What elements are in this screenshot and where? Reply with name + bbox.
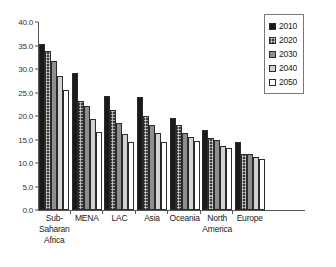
- bar: [194, 141, 200, 210]
- bar: [220, 146, 226, 210]
- bar: [78, 101, 84, 211]
- x-axis-label: LAC: [103, 213, 136, 246]
- x-axis-label: North America: [201, 213, 234, 246]
- legend-item: 2040: [269, 61, 297, 75]
- bar: [188, 137, 194, 210]
- x-axis-label: Oceania: [168, 213, 201, 246]
- x-axis-label: Sub- Saharan Africa: [38, 213, 71, 246]
- legend-label: 2050: [279, 77, 297, 87]
- bar: [149, 125, 155, 210]
- bar: [202, 130, 208, 210]
- legend-swatch-icon: [269, 79, 276, 86]
- bar-group: [136, 22, 169, 210]
- bar: [253, 157, 259, 210]
- legend-item: 2010: [269, 19, 297, 33]
- legend-item: 2020: [269, 33, 297, 47]
- legend-swatch-icon: [269, 51, 276, 58]
- bar: [208, 138, 214, 210]
- bar: [90, 119, 96, 210]
- bar: [128, 142, 134, 210]
- x-axis-label: Europe: [233, 213, 266, 246]
- bar: [155, 133, 161, 210]
- bar: [226, 148, 232, 210]
- bar-group: [201, 22, 234, 210]
- legend-swatch-icon: [269, 37, 276, 44]
- bar: [182, 133, 188, 210]
- bar: [39, 44, 45, 210]
- legend-item: 2030: [269, 47, 297, 61]
- bar: [143, 116, 149, 210]
- bar: [57, 76, 63, 210]
- bar: [247, 154, 253, 210]
- bar: [116, 123, 122, 210]
- legend-swatch-icon: [269, 65, 276, 72]
- plot-area: 40.035.030.025.020.015.010.05.00.0: [38, 22, 266, 210]
- legend-label: 2010: [279, 21, 297, 31]
- bar-group: [38, 22, 71, 210]
- bar-group: [71, 22, 104, 210]
- x-axis-label: Asia: [136, 213, 169, 246]
- bar: [137, 97, 143, 210]
- x-axis-labels: Sub- Saharan AfricaMENALACAsiaOceaniaNor…: [38, 213, 266, 246]
- bar: [45, 51, 51, 210]
- bar: [110, 110, 116, 210]
- bar: [235, 142, 241, 210]
- bar: [96, 132, 102, 210]
- bar: [122, 134, 128, 210]
- legend-label: 2020: [279, 35, 297, 45]
- bar: [241, 154, 247, 210]
- chart-legend: 20102020203020402050: [264, 14, 304, 94]
- legend-label: 2030: [279, 49, 297, 59]
- x-axis-line: [38, 210, 305, 211]
- legend-item: 2050: [269, 75, 297, 89]
- bar: [84, 106, 90, 210]
- legend-label: 2040: [279, 63, 297, 73]
- bar: [259, 159, 265, 210]
- bar: [170, 118, 176, 210]
- bar: [63, 90, 69, 210]
- bar-group: [103, 22, 136, 210]
- x-axis-label: MENA: [71, 213, 104, 246]
- bar: [161, 142, 167, 210]
- bar-groups: [38, 22, 266, 210]
- bar: [104, 96, 110, 210]
- bar: [214, 140, 220, 210]
- legend-swatch-icon: [269, 23, 276, 30]
- bar: [176, 125, 182, 210]
- bar: [51, 61, 57, 210]
- bar: [72, 73, 78, 210]
- bar-chart: 40.035.030.025.020.015.010.05.00.0 Sub- …: [0, 0, 336, 267]
- bar-group: [233, 22, 266, 210]
- bar-group: [168, 22, 201, 210]
